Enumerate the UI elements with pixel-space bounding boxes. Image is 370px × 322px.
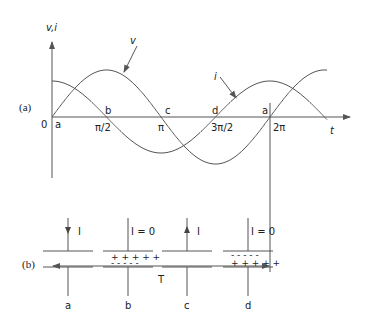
part-b-label-text: (b) xyxy=(22,258,35,271)
current-label-c: I xyxy=(197,226,200,237)
capacitor-label-a: a xyxy=(65,300,71,311)
capacitor-c: I c xyxy=(162,218,212,311)
current-label-d: I = 0 xyxy=(251,226,275,237)
bottom-charges-d: + + + + + xyxy=(231,258,280,268)
bottom-charges-b: - - - - - xyxy=(111,258,139,268)
capacitor-label-b: b xyxy=(125,300,131,311)
arrow-down-icon xyxy=(65,227,71,234)
current-label-b: I = 0 xyxy=(131,226,155,237)
arrow-up-icon xyxy=(184,226,190,233)
capacitor-panel: (b) I a I = 0 + + + + + - - - - - b I c xyxy=(0,0,370,322)
capacitor-label-c: c xyxy=(184,300,190,311)
capacitor-d: I = 0 - - - - - + + + + + d xyxy=(223,218,280,311)
capacitor-a: I a xyxy=(43,218,93,311)
capacitor-label-d: d xyxy=(245,300,251,311)
capacitor-b: I = 0 + + + + + - - - - - b xyxy=(103,218,160,311)
current-label-a: I xyxy=(78,226,81,237)
